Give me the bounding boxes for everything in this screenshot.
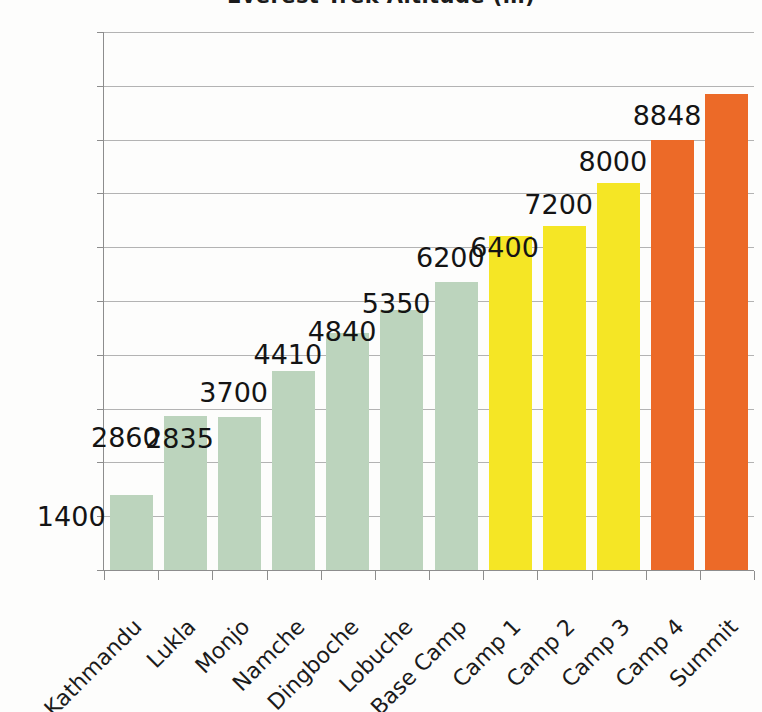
y-tick-mark <box>97 301 104 302</box>
bar-value-label: 4840 <box>302 316 376 347</box>
y-tick-mark <box>97 355 104 356</box>
bar[interactable] <box>326 333 369 570</box>
bar[interactable] <box>218 417 261 570</box>
bar-value-label: 3700 <box>194 377 268 408</box>
bar-value-label: 5350 <box>357 288 431 319</box>
y-tick-mark <box>97 247 104 248</box>
x-tick-mark <box>267 571 268 580</box>
y-tick-mark <box>97 570 104 571</box>
bar[interactable] <box>705 94 748 570</box>
y-tick-mark <box>97 140 104 141</box>
y-tick-mark <box>97 86 104 87</box>
x-tick-mark <box>429 571 430 580</box>
y-tick-mark <box>97 409 104 410</box>
y-tick-mark <box>97 32 104 33</box>
bar[interactable] <box>651 140 694 570</box>
x-tick-mark <box>212 571 213 580</box>
x-tick-mark <box>158 571 159 580</box>
bar-value-label: 7200 <box>519 189 593 220</box>
y-tick-mark <box>97 462 104 463</box>
x-tick-mark <box>483 571 484 580</box>
y-tick-mark <box>97 193 104 194</box>
x-tick-mark <box>375 571 376 580</box>
x-tick-mark <box>537 571 538 580</box>
bar-value-label: 6400 <box>465 232 539 263</box>
plot-area: 1400286028353700441048405350620064007200… <box>104 32 754 570</box>
bar-value-label: 8848 <box>627 100 701 131</box>
bar[interactable] <box>543 226 586 570</box>
chart-title: Everest Trek Altitude (m) <box>0 0 762 8</box>
bar[interactable] <box>110 495 153 570</box>
bar-value-label: 8000 <box>573 146 647 177</box>
gridline <box>104 86 754 87</box>
bar[interactable] <box>489 236 532 570</box>
x-tick-mark <box>592 571 593 580</box>
x-axis-label: Lukla <box>142 614 201 673</box>
bar[interactable] <box>272 371 315 570</box>
x-tick-mark <box>104 571 105 580</box>
x-tick-mark <box>646 571 647 580</box>
bar[interactable] <box>435 282 478 570</box>
bar-value-label: 2835 <box>140 423 214 454</box>
x-tick-mark <box>321 571 322 580</box>
bar[interactable] <box>597 183 640 570</box>
x-axis-label: Kathmandu <box>39 614 146 712</box>
bar[interactable] <box>380 310 423 570</box>
chart-page: Everest Trek Altitude (m) 01000200030004… <box>0 0 762 712</box>
x-tick-mark <box>754 571 755 580</box>
gridline <box>104 32 754 33</box>
x-tick-mark <box>700 571 701 580</box>
bar-value-label: 1400 <box>32 501 106 532</box>
